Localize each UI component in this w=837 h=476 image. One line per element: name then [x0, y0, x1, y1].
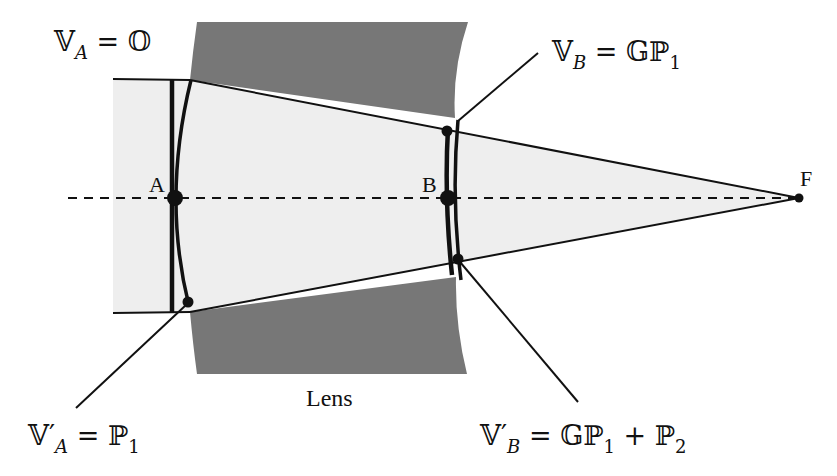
- focal-point-marker: [795, 194, 804, 203]
- label-point-f: F: [800, 168, 812, 190]
- vpb-rhs-sub: 1: [604, 436, 615, 457]
- vpa-rhs-sub: 1: [128, 436, 139, 457]
- vpb-rhs: 𝔾ℙ: [560, 420, 603, 451]
- vpb-rhs2: ℙ: [655, 420, 675, 451]
- label-point-b: B: [422, 174, 437, 196]
- beam-top-edge-left: [113, 79, 190, 80]
- label-point-a: A: [149, 174, 165, 196]
- vpb-lhs: 𝕍′: [480, 420, 507, 451]
- vpa-lhs: 𝕍′: [28, 420, 55, 451]
- va-rhs: 𝕆: [128, 26, 152, 57]
- point-b-marker: [440, 190, 456, 206]
- leader-vb: [458, 53, 538, 121]
- vpb-rhs2-sub: 2: [675, 436, 686, 457]
- vpa-sub: A: [55, 436, 68, 457]
- va-sub: A: [75, 42, 88, 63]
- vpb-sub: B: [507, 436, 520, 457]
- annotation-va: 𝕍A = 𝕆: [54, 28, 151, 55]
- vb-rhs-sub: 1: [669, 52, 680, 73]
- point-b-top-marker: [442, 126, 453, 137]
- vb-rhs: 𝔾ℙ: [626, 36, 669, 67]
- annotation-vpa: 𝕍′A = ℙ1: [28, 422, 140, 449]
- point-a-marker: [167, 190, 183, 206]
- va-lhs: 𝕍: [54, 26, 75, 57]
- vpa-rhs: ℙ: [108, 420, 128, 451]
- annotation-vb: 𝕍B = 𝔾ℙ1: [552, 38, 681, 65]
- leader-vpb: [460, 262, 578, 402]
- vb-eq: =: [595, 36, 618, 67]
- vb-lhs: 𝕍: [552, 36, 573, 67]
- wavefront-lens-diagram: [0, 0, 837, 476]
- vpb-eq: =: [529, 420, 552, 451]
- va-eq: =: [97, 26, 120, 57]
- vpa-eq: =: [77, 420, 100, 451]
- vpb-plus: +: [624, 420, 647, 451]
- label-lens: Lens: [306, 386, 353, 410]
- annotation-vpb: 𝕍′B = 𝔾ℙ1 + ℙ2: [480, 422, 687, 449]
- vb-sub: B: [573, 52, 586, 73]
- leader-vpa: [76, 305, 186, 408]
